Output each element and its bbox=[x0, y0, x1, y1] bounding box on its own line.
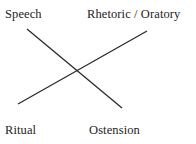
label-ritual: Ritual bbox=[5, 123, 36, 137]
label-rhetoric-oratory: Rhetoric / Oratory bbox=[87, 7, 180, 21]
label-ostension: Ostension bbox=[89, 123, 140, 137]
chiasmus-diagram: Speech Rhetoric / Oratory Ritual Ostensi… bbox=[0, 0, 196, 144]
line-ritual-to-rhetoric bbox=[18, 31, 147, 104]
label-speech: Speech bbox=[5, 7, 42, 21]
line-speech-to-ostension bbox=[27, 29, 122, 108]
